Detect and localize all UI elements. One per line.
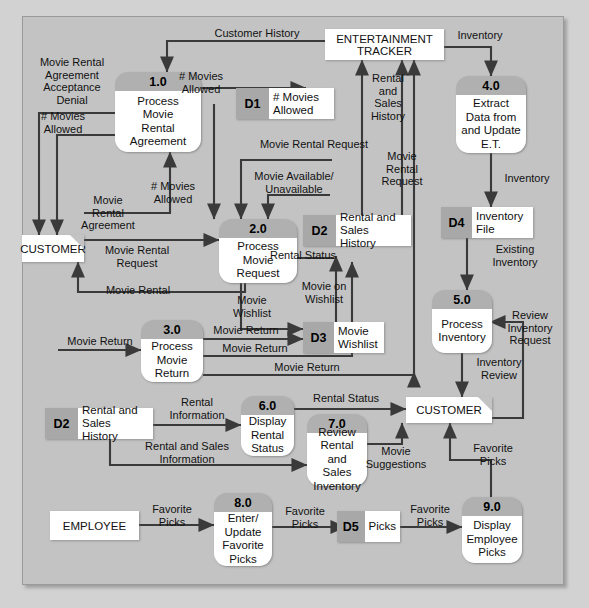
flow-label-movie-wishlist: Movie Wishlist: [221, 294, 283, 319]
flow-label-movie-available-unavailable: Movie Available/ Unavailable: [236, 170, 352, 195]
process-number: 6.0: [241, 398, 294, 415]
process-9-0[interactable]: 9.0 Display Employee Picks: [462, 497, 522, 563]
entity-label: CUSTOMER: [416, 404, 482, 416]
entity-label: EMPLOYEE: [63, 520, 126, 532]
process-number: 4.0: [456, 78, 526, 95]
flow-label-movie-rental-agreement: Movie Rental Agreement: [76, 194, 140, 232]
data-store-d2-upper[interactable]: D2 Rental and Sales History: [303, 215, 411, 246]
flow-label-movies-allowed-mid: # Movies Allowed: [140, 180, 206, 205]
data-store-d5[interactable]: D5 Picks: [337, 511, 400, 542]
store-name: Inventory File: [472, 207, 533, 238]
data-store-d3[interactable]: D3 Movie Wishlist: [303, 322, 384, 353]
process-name: Review Rental and Sales Inventory: [307, 433, 367, 486]
store-id: D3: [303, 322, 334, 353]
entity-customer-left[interactable]: CUSTOMER: [22, 235, 84, 262]
flow-label-rental-status-2: Rental Status: [266, 249, 340, 262]
flow-label-favorite-picks-8-d5: Favorite Picks: [272, 505, 338, 530]
process-3-0[interactable]: 3.0 Process Movie Return: [141, 320, 203, 382]
flow-label-movie-rental-request-cust: Movie Rental Request: [91, 244, 183, 269]
store-id: D2: [303, 215, 336, 246]
flow-label-rental-and-sales-information: Rental and Sales Information: [127, 440, 247, 465]
process-6-0[interactable]: 6.0 Display Rental Status: [241, 396, 294, 456]
flow-label-rental-and-sales-history: Rental and Sales History: [366, 72, 410, 122]
entity-entertainment-tracker[interactable]: ENTERTAINMENT TRACKER: [325, 29, 444, 60]
flow-label-movie-suggestions: Movie Suggestions: [360, 445, 432, 470]
flow-label-movies-allowed-top: # Movies Allowed: [166, 70, 236, 95]
process-name: Display Rental Status: [241, 415, 294, 456]
flow-label-rental-status-6: Rental Status: [303, 392, 389, 405]
process-number: 2.0: [219, 221, 297, 238]
flow-label-inventory-review: Inventory Review: [466, 356, 532, 381]
flow-label-movie-return-d3: Movie Return: [197, 324, 295, 337]
process-number: 8.0: [214, 495, 272, 512]
process-name: Process Movie Return: [141, 339, 203, 382]
store-id: D2: [45, 408, 78, 439]
flow-label-movie-rental: Movie Rental: [93, 284, 183, 297]
flow-label-review-inventory-request: Review Inventory Request: [497, 309, 563, 347]
flow-label-movie-on-wishlist: Movie on Wishlist: [289, 280, 359, 305]
store-id: D1: [236, 88, 269, 119]
process-name: Extract Data from and Update E.T.: [456, 95, 526, 153]
flow-label-existing-inventory: Existing Inventory: [483, 243, 547, 268]
process-4-0[interactable]: 4.0 Extract Data from and Update E.T.: [456, 76, 526, 153]
flow-label-movie-return-et: Movie Return: [258, 361, 356, 374]
data-store-d2-lower[interactable]: D2 Rental and Sales History: [45, 408, 153, 439]
flow-label-customer-history: Customer History: [192, 27, 322, 40]
process-name: Display Employee Picks: [462, 516, 522, 563]
store-name: Movie Wishlist: [334, 322, 384, 353]
process-5-0[interactable]: 5.0 Process Inventory: [432, 290, 492, 353]
data-store-d1[interactable]: D1 # Movies Allowed: [236, 88, 334, 119]
flow-label-favorite-picks-d5-9: Favorite Picks: [397, 503, 463, 528]
store-name: Rental and Sales History: [336, 215, 411, 246]
process-8-0[interactable]: 8.0 Enter/ Update Favorite Picks: [214, 493, 272, 566]
flow-label-movie-return-d2: Movie Return: [206, 342, 304, 355]
flow-label-rental-information: Rental Information: [158, 396, 236, 421]
entity-employee[interactable]: EMPLOYEE: [50, 511, 139, 540]
flow-label-agreement-acceptance-denial: Movie Rental Agreement Acceptance Denial: [24, 56, 120, 106]
flow-label-inventory-mid: Inventory: [497, 172, 557, 185]
store-name: # Movies Allowed: [269, 88, 334, 119]
store-id: D4: [441, 207, 472, 238]
store-id: D5: [337, 511, 365, 542]
flow-label-favorite-picks-9-cust: Favorite Picks: [462, 442, 524, 467]
process-number: 9.0: [462, 499, 522, 516]
flow-label-movie-rental-request-top: Movie Rental Request: [229, 138, 399, 151]
entity-label: ENTERTAINMENT TRACKER: [336, 33, 433, 57]
process-name: Process Movie Rental Agreement: [115, 91, 201, 152]
entity-customer-right[interactable]: CUSTOMER: [406, 397, 492, 423]
process-number: 3.0: [141, 322, 203, 339]
process-name: Enter/ Update Favorite Picks: [214, 512, 272, 566]
process-7-0[interactable]: 7.0 Review Rental and Sales Inventory: [307, 414, 367, 486]
store-name: Rental and Sales History: [78, 408, 153, 439]
flow-label-favorite-picks-emp: Favorite Picks: [137, 503, 207, 528]
flow-label-movies-allowed-left: # Movies Allowed: [30, 110, 96, 135]
process-number: 5.0: [432, 292, 492, 309]
flow-label-inventory-top: Inventory: [446, 29, 514, 42]
data-store-d4[interactable]: D4 Inventory File: [441, 207, 533, 238]
store-name: Picks: [365, 511, 400, 542]
process-name: Process Inventory: [432, 309, 492, 353]
flow-label-movie-return-cust: Movie Return: [54, 335, 146, 348]
entity-label: CUSTOMER: [20, 243, 86, 255]
flow-label-movie-rental-request-mid: Movie Rental Request: [376, 150, 428, 188]
